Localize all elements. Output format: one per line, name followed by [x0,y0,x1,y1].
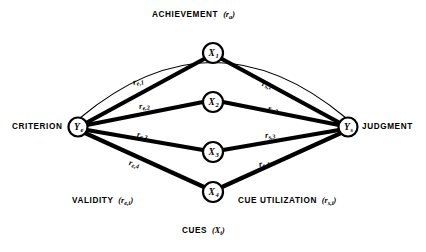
node-judgment-subscript: s [350,126,354,133]
judgment-caption: JUDGMENT [362,122,413,131]
edge-label-right-3-subscript: s,3 [268,132,276,140]
edge-label-left-3-subscript: e,3 [140,133,148,141]
achievement-caption-text: ACHIEVEMENT [152,10,218,19]
node-cue-2-symbol: X [208,97,216,107]
cues-caption: CUES (Xi) [182,226,225,236]
node-cue-1-symbol: X [208,48,216,58]
judgment-caption-text: JUDGMENT [362,122,413,131]
validity-caption-text: VALIDITY [72,196,113,205]
edge-label-left-3: re,3 [137,130,149,141]
edge-label-right-1: rs,1 [261,79,273,90]
criterion-caption-text: CRITERION [12,122,62,131]
cues-paren-close: ) [222,226,225,235]
validity-paren-close: ) [130,196,133,205]
edge-label-right-1-subscript: s,1 [264,82,272,90]
node-cue-3-symbol: X [208,147,216,157]
node-cue-1-subscript: 1 [216,52,219,59]
lens-model-diagram: Y e Y s X 1 X 2 X 3 X 4 ACHIEVEMENT (ra)… [0,0,426,252]
achievement-paren-close: ) [232,10,235,19]
criterion-caption: CRITERION [12,122,62,131]
cue-utilization-caption-text: CUE UTILIZATION [238,196,317,205]
edge-label-left-4: re,4 [128,158,141,170]
node-criterion-subscript: e [81,126,84,133]
edge-label-right-2-subscript: s,2 [271,107,279,115]
edge-label-left-2: re,2 [139,101,151,112]
edge-label-left-4-subscript: e,4 [131,161,140,169]
cue-utilization-paren-close: ) [334,196,337,205]
cues-caption-text: CUES [182,226,207,235]
edge-label-left-1-subscript: e,1 [136,78,145,86]
edge-label-right-3: rs,3 [265,130,276,141]
edge-label-left-2-subscript: e,2 [142,103,150,111]
achievement-caption: ACHIEVEMENT (ra) [152,10,235,20]
validity-caption: VALIDITY (re,i) [72,196,133,206]
node-cue-4-symbol: X [208,187,216,197]
edge-label-right-2: rs,2 [268,104,279,115]
cue-utilization-caption: CUE UTILIZATION (rs,i) [238,196,336,206]
